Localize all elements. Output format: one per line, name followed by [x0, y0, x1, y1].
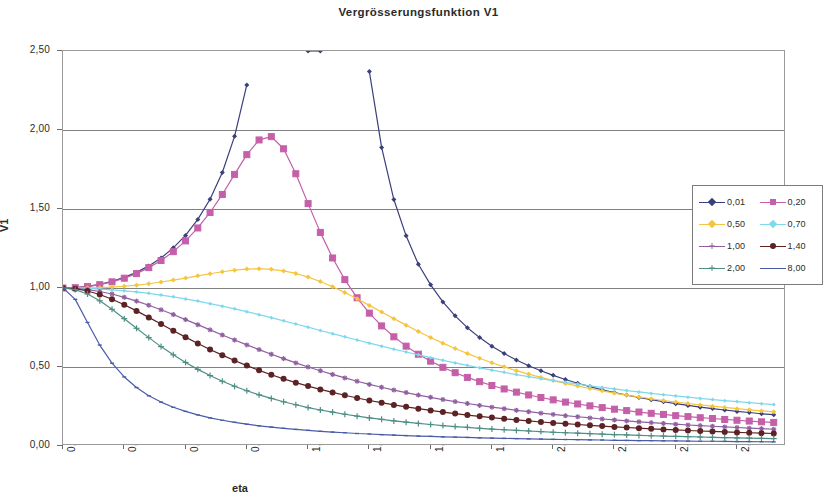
- legend-item-label: 2,00: [727, 263, 745, 273]
- y-tick-label: 1,50: [6, 202, 50, 213]
- legend-item-1-40[interactable]: 1,40: [758, 241, 819, 251]
- legend-item-0-70[interactable]: 0,70: [758, 219, 819, 229]
- legend-item-1-00[interactable]: 1,00: [697, 241, 758, 251]
- legend-item-0-50[interactable]: 0,50: [697, 219, 758, 229]
- legend-item-label: 0,01: [727, 197, 745, 207]
- chart-root: Vergrösserungsfunktion V1 V1 eta 0,000,5…: [0, 0, 837, 499]
- legend-item-label: 0,20: [788, 197, 806, 207]
- plot-area: [62, 50, 785, 445]
- legend-item-label: 1,40: [788, 241, 806, 251]
- legend-item-label: 0,70: [788, 219, 806, 229]
- legend-swatch-icon: [760, 241, 786, 251]
- series-0-70: [61, 286, 776, 407]
- legend-swatch-icon: [699, 241, 725, 251]
- series-0-01: [61, 49, 777, 418]
- series-0-20: [60, 134, 777, 426]
- series-8-00: [61, 288, 776, 442]
- y-axis-title: V1: [0, 219, 10, 232]
- y-tick-label: 2,50: [6, 44, 50, 55]
- legend-swatch-icon: [699, 219, 725, 229]
- y-tick-label: 1,00: [6, 281, 50, 292]
- series-1-40: [60, 285, 777, 437]
- series-0-50: [61, 266, 777, 414]
- legend-swatch-icon: [760, 197, 786, 207]
- legend-item-2-00[interactable]: 2,00: [697, 263, 758, 273]
- legend-item-label: 0,50: [727, 219, 745, 229]
- legend-swatch-icon: [699, 263, 725, 273]
- y-tick-label: 0,00: [6, 439, 50, 450]
- chart-title: Vergrösserungsfunktion V1: [0, 6, 837, 18]
- y-tick-label: 2,00: [6, 123, 50, 134]
- legend-item-label: 8,00: [788, 263, 806, 273]
- legend-item-0-20[interactable]: 0,20: [758, 197, 819, 207]
- legend-swatch-icon: [760, 263, 786, 273]
- series-2-00: [60, 285, 777, 442]
- legend-item-label: 1,00: [727, 241, 745, 251]
- legend-swatch-icon: [760, 219, 786, 229]
- y-tick-label: 0,50: [6, 360, 50, 371]
- x-axis-title: eta: [0, 482, 480, 494]
- chart-legend: 0,010,200,500,701,001,402,008,00: [692, 185, 823, 285]
- series-layer: [63, 51, 786, 446]
- legend-item-0-01[interactable]: 0,01: [697, 197, 758, 207]
- legend-swatch-icon: [699, 197, 725, 207]
- legend-item-8-00[interactable]: 8,00: [758, 263, 819, 273]
